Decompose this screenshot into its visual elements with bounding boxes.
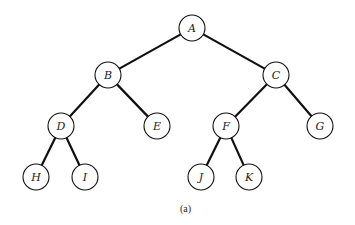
edge-c-g (284, 85, 311, 116)
edge-b-d (70, 85, 99, 117)
node-label: G (316, 120, 325, 133)
tree-node-k: K (236, 164, 262, 190)
tree-node-e: E (144, 113, 170, 139)
node-label: C (272, 69, 281, 82)
node-label: B (103, 69, 112, 82)
node-label: H (30, 171, 41, 184)
node-label: J (197, 171, 204, 184)
node-label: I (82, 171, 88, 184)
edge-d-h (42, 138, 56, 166)
tree-node-c: C (263, 62, 289, 88)
tree-node-h: H (23, 164, 49, 190)
tree-node-b: B (95, 62, 121, 88)
edge-d-i (67, 138, 80, 165)
edge-f-k (231, 138, 243, 165)
tree-node-g: G (307, 113, 333, 139)
node-label: D (56, 120, 66, 133)
tree-node-f: F (213, 113, 239, 139)
edge-c-f (235, 84, 267, 116)
tree-nodes: ABCDEFGHIJK (23, 15, 333, 190)
tree-node-a: A (179, 15, 205, 41)
edge-f-j (207, 138, 221, 166)
node-label: A (187, 22, 196, 35)
edge-a-c (203, 34, 264, 68)
tree-node-i: I (72, 164, 98, 190)
node-label: F (221, 120, 230, 133)
tree-edges (42, 34, 312, 165)
edge-a-b (119, 34, 180, 68)
tree-node-j: J (188, 164, 214, 190)
node-label: E (152, 120, 161, 133)
edge-b-e (117, 84, 148, 116)
figure-caption: (a) (180, 203, 191, 214)
binary-tree-diagram: ABCDEFGHIJK (0, 0, 355, 225)
tree-node-d: D (48, 113, 74, 139)
node-label: K (244, 171, 254, 184)
